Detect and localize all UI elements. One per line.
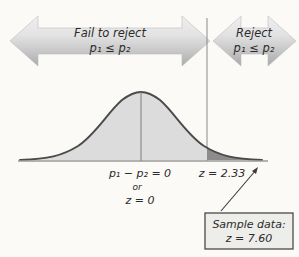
reject-band: Reject p₁ ≤ p₂: [213, 16, 296, 66]
center-label-or: or: [132, 182, 143, 192]
sample-data-callout: Sample data: z = 7.60: [205, 213, 293, 249]
callout-label-line2: z = 7.60: [225, 232, 272, 245]
fail-to-reject-label-line1: Fail to reject: [74, 26, 146, 40]
critical-value-label: z = 2.33: [198, 167, 245, 180]
center-label-z-zero: z = 0: [125, 194, 155, 207]
hypothesis-test-diagram: Fail to reject p₁ ≤ p₂ Reject p₁ ≤ p₂ p₁…: [0, 0, 299, 257]
center-label-difference: p₁ − p₂ = 0: [108, 167, 171, 180]
callout-label-line1: Sample data:: [212, 218, 285, 231]
reject-label-line1: Reject: [236, 26, 273, 40]
fail-to-reject-band: Fail to reject p₁ ≤ p₂: [10, 16, 210, 66]
reject-label-line2: p₁ ≤ p₂: [233, 41, 275, 55]
fail-to-reject-label-line2: p₁ ≤ p₂: [89, 41, 131, 55]
diagram-canvas: Fail to reject p₁ ≤ p₂ Reject p₁ ≤ p₂ p₁…: [0, 0, 299, 257]
